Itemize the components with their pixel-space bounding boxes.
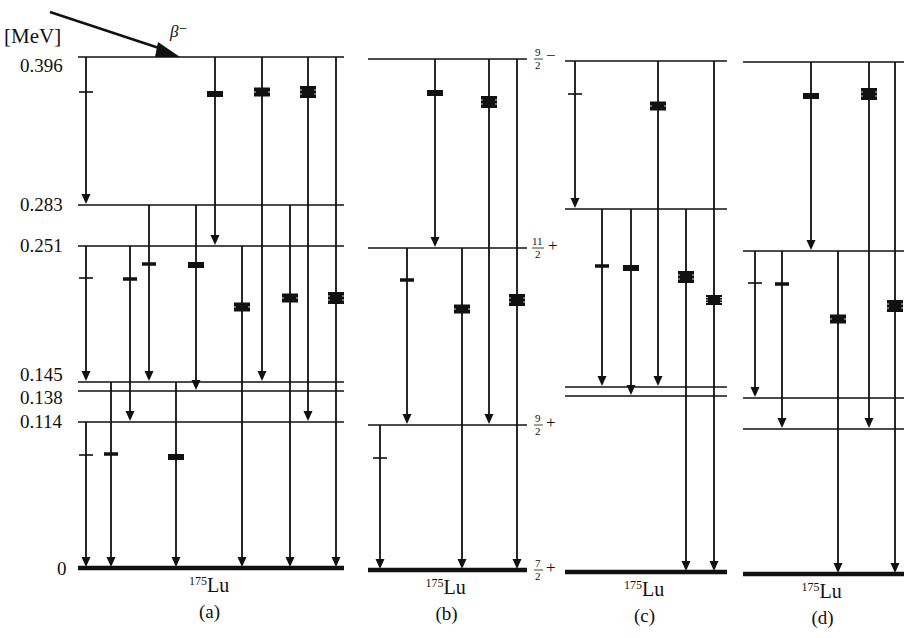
energy-label-0: 0 bbox=[57, 558, 67, 579]
beta-arrowhead-icon bbox=[155, 42, 180, 57]
intensity-marker-bar4 bbox=[300, 86, 316, 98]
gamma-transition bbox=[706, 61, 722, 571]
intensity-marker-bar4 bbox=[678, 271, 694, 283]
nuclide-label: 175Lu bbox=[189, 574, 229, 596]
arrowhead-icon bbox=[807, 240, 816, 250]
gamma-transition bbox=[427, 59, 443, 247]
svg-text:2: 2 bbox=[535, 425, 541, 437]
intensity-marker-bar2 bbox=[207, 91, 223, 97]
gamma-transition bbox=[509, 59, 525, 569]
gamma-transition bbox=[207, 57, 223, 245]
gamma-transition bbox=[188, 205, 204, 390]
gamma-transition bbox=[282, 205, 298, 567]
svg-text:+: + bbox=[548, 236, 558, 255]
energy-label-0114: 0.114 bbox=[20, 411, 63, 432]
beta-decay-arrow: β⁻ bbox=[50, 12, 187, 57]
intensity-marker-bar1 bbox=[775, 282, 789, 286]
gamma-transition bbox=[623, 209, 639, 395]
spin-label-9-2-minus: 9 2 − bbox=[534, 46, 556, 71]
gamma-transition bbox=[887, 62, 903, 573]
nuclide-label: 175Lu bbox=[426, 576, 466, 598]
svg-text:7: 7 bbox=[535, 557, 541, 569]
intensity-marker-bar1 bbox=[142, 262, 156, 266]
intensity-marker-bar4 bbox=[887, 300, 903, 312]
intensity-marker-bar3 bbox=[830, 315, 846, 324]
arrowhead-icon bbox=[751, 387, 760, 397]
intensity-marker-bar2 bbox=[803, 93, 819, 99]
arrowhead-icon bbox=[654, 376, 663, 386]
svg-text:9: 9 bbox=[535, 412, 541, 424]
intensity-marker-tick bbox=[79, 277, 93, 279]
energy-label-0138: 0.138 bbox=[20, 387, 63, 408]
energy-label-0396: 0.396 bbox=[20, 55, 63, 76]
arrowhead-icon bbox=[145, 371, 154, 381]
arrowhead-icon bbox=[192, 380, 201, 390]
arrowhead-icon bbox=[172, 557, 181, 567]
intensity-marker-bar1 bbox=[400, 278, 414, 282]
intensity-marker-bar3 bbox=[650, 102, 666, 111]
intensity-marker-bar3 bbox=[454, 305, 470, 314]
spin-label-11-2-plus: 11 2 + bbox=[532, 235, 558, 260]
arrowhead-icon bbox=[571, 198, 580, 208]
panel-c: 175Lu(c) bbox=[565, 61, 727, 627]
panel-label-b: (b) bbox=[436, 603, 458, 625]
gamma-transition bbox=[830, 251, 846, 573]
gamma-transition bbox=[123, 246, 137, 421]
arrowhead-icon bbox=[682, 561, 691, 571]
arrowhead-icon bbox=[238, 557, 247, 567]
gamma-transition bbox=[79, 57, 93, 204]
arrowhead-icon bbox=[376, 559, 385, 569]
intensity-marker-tick bbox=[79, 91, 93, 93]
intensity-marker-bar1 bbox=[123, 277, 137, 281]
intensity-marker-bar2 bbox=[188, 262, 204, 268]
nuclide-label: 175Lu bbox=[624, 578, 664, 600]
energy-axis: [MeV] 0.396 0.283 0.251 0.145 0.138 0.11… bbox=[4, 24, 67, 579]
arrowhead-icon bbox=[431, 237, 440, 247]
arrowhead-icon bbox=[211, 235, 220, 245]
nuclide-label: 175Lu bbox=[802, 580, 842, 602]
decay-scheme-diagram: [MeV] 0.396 0.283 0.251 0.145 0.138 0.11… bbox=[0, 0, 918, 638]
panel-a: 175Lu(a) bbox=[78, 57, 344, 623]
intensity-marker-tick bbox=[79, 454, 93, 456]
intensity-marker-bar2 bbox=[168, 454, 184, 460]
intensity-marker-bar3 bbox=[282, 294, 298, 303]
intensity-marker-bar4 bbox=[328, 292, 344, 304]
svg-text:2: 2 bbox=[535, 59, 541, 71]
intensity-marker-tick bbox=[568, 93, 582, 95]
gamma-transition bbox=[775, 251, 789, 428]
svg-text:−: − bbox=[546, 46, 556, 65]
gamma-transition bbox=[79, 422, 93, 567]
gamma-transition bbox=[328, 57, 344, 567]
energy-label-0283: 0.283 bbox=[20, 194, 63, 215]
gamma-transition bbox=[142, 205, 156, 381]
gamma-transition bbox=[400, 248, 414, 424]
intensity-marker-tick bbox=[373, 457, 387, 459]
gamma-transition bbox=[650, 61, 666, 386]
intensity-marker-bar2 bbox=[623, 265, 639, 271]
arrowhead-icon bbox=[82, 371, 91, 381]
arrowhead-icon bbox=[778, 418, 787, 428]
spin-label-9-2-plus: 9 2 + bbox=[534, 412, 556, 437]
beta-arrow-shaft bbox=[50, 12, 165, 50]
arrowhead-icon bbox=[126, 411, 135, 421]
gamma-transition bbox=[300, 57, 316, 421]
gamma-transition bbox=[678, 209, 694, 571]
panel-d: 175Lu(d) bbox=[743, 62, 904, 629]
arrowhead-icon bbox=[865, 418, 874, 428]
panel-label-a: (a) bbox=[199, 601, 220, 623]
spin-parity-labels: 9 2 − 11 2 + 9 2 + 7 2 + bbox=[532, 46, 558, 582]
unit-label: [MeV] bbox=[4, 24, 61, 48]
gamma-transition bbox=[595, 209, 609, 386]
panel-label-c: (c) bbox=[634, 605, 655, 627]
panel-label-d: (d) bbox=[812, 607, 834, 629]
intensity-marker-bar4 bbox=[861, 88, 877, 100]
gamma-transition bbox=[861, 62, 877, 428]
arrowhead-icon bbox=[82, 194, 91, 204]
arrowhead-icon bbox=[286, 557, 295, 567]
gamma-transition bbox=[104, 382, 118, 567]
gamma-transition bbox=[454, 248, 470, 569]
gamma-transition bbox=[79, 246, 93, 381]
intensity-marker-bar3 bbox=[254, 88, 270, 97]
svg-text:2: 2 bbox=[535, 570, 541, 582]
panel-b: 175Lu(b) bbox=[368, 59, 527, 625]
